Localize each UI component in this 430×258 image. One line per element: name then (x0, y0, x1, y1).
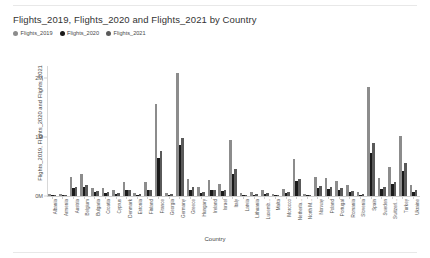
x-axis-tick (132, 197, 143, 198)
legend-marker-icon (13, 31, 18, 36)
bar-group[interactable] (164, 66, 175, 196)
x-axis-label-slot: Denmark (121, 199, 132, 237)
bar-group[interactable] (217, 66, 228, 196)
bar[interactable] (362, 194, 365, 196)
x-axis-tick (164, 197, 175, 198)
bar-group[interactable] (132, 66, 143, 196)
bar[interactable] (85, 185, 88, 196)
bar[interactable] (245, 195, 248, 196)
bar[interactable] (224, 190, 227, 196)
bar-group[interactable] (143, 66, 154, 196)
bar-group[interactable] (334, 66, 345, 196)
bar[interactable] (383, 187, 386, 196)
bar[interactable] (415, 190, 418, 196)
bar[interactable] (54, 195, 57, 196)
bar-group[interactable] (291, 66, 302, 196)
bar[interactable] (202, 192, 205, 196)
bar[interactable] (319, 186, 322, 196)
bar-group[interactable] (398, 66, 409, 196)
x-axis-label-slot: Ireland (206, 199, 217, 237)
bar-group[interactable] (270, 66, 281, 196)
bar[interactable] (128, 190, 131, 197)
x-axis-label-slot: Slovenia (355, 199, 366, 237)
bar[interactable] (394, 182, 397, 196)
x-axis-label-slot: Finland (143, 199, 154, 237)
bar[interactable] (309, 195, 312, 196)
bar[interactable] (298, 179, 301, 196)
bar-group[interactable] (90, 66, 101, 196)
bar-group[interactable] (111, 66, 122, 196)
y-axis-tick-label: 2M (35, 75, 43, 81)
x-axis-tick (260, 197, 271, 198)
bar-group[interactable] (185, 66, 196, 196)
bar[interactable] (372, 143, 375, 196)
x-axis-tick (291, 197, 302, 198)
bar-groups (47, 66, 419, 196)
bar[interactable] (139, 194, 142, 196)
bar-group[interactable] (238, 66, 249, 196)
bar-group[interactable] (323, 66, 334, 196)
x-axis-tick (143, 197, 154, 198)
bar[interactable] (96, 191, 99, 196)
x-axis-tick (68, 197, 79, 198)
bar[interactable] (213, 190, 216, 197)
bar-group[interactable] (408, 66, 419, 196)
x-axis-tick (398, 197, 409, 198)
bar[interactable] (181, 138, 184, 196)
legend-item-flights-2021[interactable]: Flights_2021 (106, 30, 146, 36)
bar-group[interactable] (228, 66, 239, 196)
bar-group[interactable] (376, 66, 387, 196)
bar-group[interactable] (79, 66, 90, 196)
x-axis-label-slot: Belgium (79, 199, 90, 237)
bar[interactable] (160, 151, 163, 196)
bar-group[interactable] (58, 66, 69, 196)
x-axis-tick (185, 197, 196, 198)
x-axis-label-slot: Albania (47, 199, 58, 237)
bar[interactable] (64, 195, 67, 196)
bar[interactable] (351, 191, 354, 196)
y-axis-tick-label: 0M (35, 193, 43, 199)
bar[interactable] (149, 190, 152, 196)
bar[interactable] (107, 192, 110, 196)
bar-group[interactable] (281, 66, 292, 196)
bar-group[interactable] (175, 66, 186, 196)
bar-group[interactable] (121, 66, 132, 196)
bar[interactable] (340, 188, 343, 196)
x-axis-tick (153, 197, 164, 198)
x-axis-tick (270, 197, 281, 198)
x-axis-label-slot: Portugal (334, 199, 345, 237)
bar-group[interactable] (196, 66, 207, 196)
bar-group[interactable] (47, 66, 58, 196)
legend-item-flights-2020[interactable]: Flights_2020 (60, 30, 100, 36)
bar-group[interactable] (313, 66, 324, 196)
bar-group[interactable] (355, 66, 366, 196)
bar-group[interactable] (249, 66, 260, 196)
bar[interactable] (287, 192, 290, 196)
x-axis-title: Country (0, 236, 430, 242)
legend-marker-icon (106, 31, 111, 36)
bar-group[interactable] (260, 66, 271, 196)
bar[interactable] (330, 187, 333, 196)
x-axis-tick (206, 197, 217, 198)
bar[interactable] (75, 187, 78, 196)
bar[interactable] (277, 195, 280, 196)
bar-group[interactable] (345, 66, 356, 196)
bar[interactable] (266, 193, 269, 196)
bar[interactable] (170, 194, 173, 196)
bar-group[interactable] (153, 66, 164, 196)
bar-group[interactable] (206, 66, 217, 196)
bar[interactable] (117, 193, 120, 196)
bar-group[interactable] (366, 66, 377, 196)
x-axis-tick (90, 197, 101, 198)
bar[interactable] (234, 169, 237, 196)
bar[interactable] (255, 194, 258, 196)
bar-group[interactable] (302, 66, 313, 196)
bar-group[interactable] (68, 66, 79, 196)
x-axis-label-slot: Germany (175, 199, 186, 237)
bar-group[interactable] (387, 66, 398, 196)
bar-group[interactable] (100, 66, 111, 196)
x-axis-label-slot: Poland (323, 199, 334, 237)
bar[interactable] (192, 187, 195, 196)
bar[interactable] (404, 163, 407, 196)
legend-item-flights-2019[interactable]: Flights_2019 (13, 30, 53, 36)
